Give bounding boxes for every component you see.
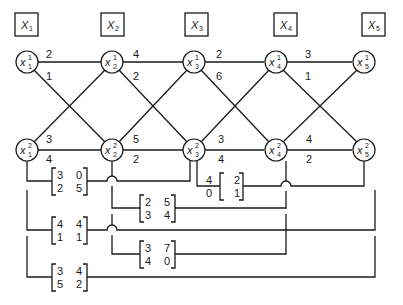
matrix-m13: 3 0 2 5 xyxy=(52,168,87,195)
svg-text:1: 1 xyxy=(305,70,311,82)
svg-text:1: 1 xyxy=(76,231,82,243)
header-x3: X 3 xyxy=(185,13,208,36)
matrix-m15b: 3 4 5 2 xyxy=(52,264,87,291)
svg-text:4: 4 xyxy=(57,218,63,230)
svg-text:2: 2 xyxy=(57,182,63,194)
node-x4-1: x 1 4 xyxy=(265,51,287,73)
svg-text:5: 5 xyxy=(365,151,369,158)
svg-text:2: 2 xyxy=(133,153,139,165)
svg-text:2: 2 xyxy=(76,278,82,290)
node-x1-1: x 1 1 xyxy=(16,51,38,73)
svg-text:4: 4 xyxy=(288,25,292,32)
svg-text:x: x xyxy=(104,144,111,156)
svg-text:3: 3 xyxy=(195,151,199,158)
node-x2-1: x 1 2 xyxy=(101,51,123,73)
svg-text:5: 5 xyxy=(164,196,170,208)
svg-text:1: 1 xyxy=(46,70,52,82)
svg-text:5: 5 xyxy=(57,278,63,290)
svg-text:5: 5 xyxy=(76,182,82,194)
svg-text:X: X xyxy=(20,19,29,31)
svg-text:2: 2 xyxy=(28,142,32,149)
svg-text:4: 4 xyxy=(76,218,82,230)
svg-text:1: 1 xyxy=(29,25,33,32)
svg-text:2: 2 xyxy=(115,25,119,32)
matrix-m15a: 4 4 1 1 xyxy=(52,217,87,244)
svg-text:2: 2 xyxy=(113,63,117,70)
svg-text:0: 0 xyxy=(76,169,82,181)
node-x3-1: x 1 3 xyxy=(183,51,205,73)
svg-text:x: x xyxy=(19,144,26,156)
header-x1: X 1 xyxy=(15,13,38,36)
svg-text:X: X xyxy=(279,19,288,31)
svg-text:x: x xyxy=(186,56,193,68)
svg-text:4: 4 xyxy=(46,153,52,165)
svg-text:2: 2 xyxy=(216,48,222,60)
svg-text:0: 0 xyxy=(164,255,170,267)
matrix-m24: 2 5 3 4 xyxy=(140,195,175,222)
svg-text:4: 4 xyxy=(145,255,151,267)
svg-text:2: 2 xyxy=(195,142,199,149)
header-x5: X 5 xyxy=(362,13,385,36)
svg-text:4: 4 xyxy=(277,151,281,158)
svg-text:3: 3 xyxy=(57,169,63,181)
svg-text:X: X xyxy=(190,19,199,31)
network-diagram: X 1 X 2 X 3 X 4 X 5 xyxy=(0,0,403,305)
svg-text:1: 1 xyxy=(28,63,32,70)
svg-text:1: 1 xyxy=(234,187,240,199)
svg-text:3: 3 xyxy=(145,242,151,254)
svg-text:x: x xyxy=(356,144,363,156)
svg-text:X: X xyxy=(367,19,376,31)
svg-text:x: x xyxy=(186,144,193,156)
svg-text:2: 2 xyxy=(113,151,117,158)
svg-text:4: 4 xyxy=(206,174,212,186)
svg-text:1: 1 xyxy=(365,54,369,61)
svg-text:5: 5 xyxy=(365,63,369,70)
svg-text:2: 2 xyxy=(113,142,117,149)
svg-text:7: 7 xyxy=(164,242,170,254)
svg-text:x: x xyxy=(104,56,111,68)
header-x2: X 2 xyxy=(101,13,124,36)
svg-text:1: 1 xyxy=(195,54,199,61)
svg-text:6: 6 xyxy=(216,70,222,82)
svg-text:4: 4 xyxy=(277,63,281,70)
svg-text:3: 3 xyxy=(218,133,224,145)
node-x4-2: x 2 4 xyxy=(265,139,287,161)
svg-text:2: 2 xyxy=(277,142,281,149)
svg-text:3: 3 xyxy=(305,48,311,60)
node-x1-2: x 2 1 xyxy=(16,139,38,161)
svg-text:4: 4 xyxy=(218,153,224,165)
svg-text:1: 1 xyxy=(277,54,281,61)
svg-text:4: 4 xyxy=(306,133,312,145)
svg-text:3: 3 xyxy=(195,63,199,70)
svg-text:5: 5 xyxy=(376,25,380,32)
svg-text:X: X xyxy=(106,19,115,31)
svg-text:3: 3 xyxy=(46,133,52,145)
svg-text:1: 1 xyxy=(28,54,32,61)
svg-text:2: 2 xyxy=(306,153,312,165)
svg-text:3: 3 xyxy=(57,265,63,277)
svg-text:x: x xyxy=(268,144,275,156)
node-x5-1: x 1 5 xyxy=(353,51,375,73)
svg-text:x: x xyxy=(356,56,363,68)
svg-text:3: 3 xyxy=(199,25,203,32)
svg-text:4: 4 xyxy=(76,265,82,277)
svg-text:2: 2 xyxy=(46,48,52,60)
node-x5-2: x 2 5 xyxy=(353,139,375,161)
svg-text:x: x xyxy=(268,56,275,68)
svg-text:3: 3 xyxy=(145,209,151,221)
matrix-m35: 4 2 0 1 xyxy=(206,173,243,200)
matrix-m24b: 3 7 4 0 xyxy=(140,241,175,268)
svg-text:x: x xyxy=(19,56,26,68)
svg-text:0: 0 xyxy=(206,187,212,199)
svg-text:4: 4 xyxy=(164,209,170,221)
svg-text:5: 5 xyxy=(133,133,139,145)
svg-text:1: 1 xyxy=(113,54,117,61)
node-x3-2: x 2 3 xyxy=(183,139,205,161)
svg-text:2: 2 xyxy=(365,142,369,149)
svg-text:2: 2 xyxy=(145,196,151,208)
node-x2-2: x 2 2 xyxy=(101,139,123,161)
svg-text:2: 2 xyxy=(234,174,240,186)
svg-text:1: 1 xyxy=(57,231,63,243)
svg-text:4: 4 xyxy=(133,48,139,60)
svg-text:1: 1 xyxy=(28,151,32,158)
